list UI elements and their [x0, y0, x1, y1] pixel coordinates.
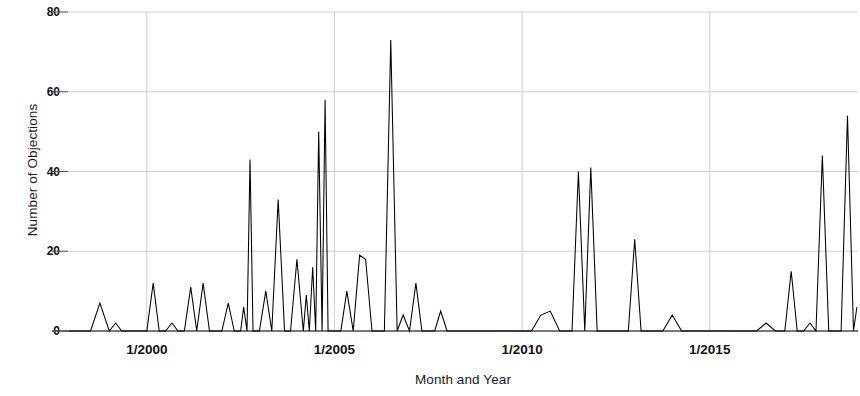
x-axis-title: Month and Year — [68, 372, 858, 387]
x-axis-tick-label: 1/2000 — [87, 342, 207, 357]
x-axis-tick-label: 1/2005 — [274, 342, 394, 357]
plot-area — [0, 0, 860, 396]
x-axis-tick-label: 1/2015 — [650, 342, 770, 357]
gridlines — [68, 12, 858, 331]
data-line-series — [69, 40, 857, 331]
chart-figure: Number of Objections 020406080 1/20001/2… — [0, 0, 860, 396]
x-axis-tick-label: 1/2010 — [462, 342, 582, 357]
x-axis-tick-labels: 1/20001/20051/20101/2015 — [0, 342, 860, 362]
